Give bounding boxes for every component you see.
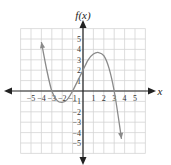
- function-graph: −5−4−3−2−112345−5−4−3−2−112345 f(x) x: [0, 0, 171, 165]
- y-tick-label: 2: [77, 66, 81, 75]
- y-axis-label: f(x): [75, 9, 91, 22]
- y-tick-label: −2: [72, 108, 81, 117]
- y-axis-down-arrow: [80, 157, 87, 165]
- y-tick-label: 3: [77, 56, 81, 65]
- curve-end-arrow-icon: [118, 133, 123, 139]
- x-axis-right-arrow: [148, 88, 156, 95]
- x-tick-label: 1: [91, 94, 95, 103]
- x-tick-label: 4: [123, 94, 127, 103]
- y-axis-up-arrow: [80, 20, 87, 28]
- curve-start-arrow-icon: [40, 42, 45, 48]
- x-axis-left-arrow: [4, 88, 12, 95]
- x-tick-label: 5: [133, 94, 137, 103]
- y-tick-label: −4: [72, 129, 81, 138]
- x-tick-label: −5: [27, 94, 36, 103]
- y-tick-label: −5: [72, 139, 81, 148]
- y-tick-label: 5: [77, 35, 81, 44]
- x-axis-label: x: [157, 85, 163, 97]
- x-tick-label: −4: [37, 94, 46, 103]
- y-tick-label: 4: [77, 45, 81, 54]
- y-tick-label: −3: [72, 118, 81, 127]
- y-tick-label: −1: [72, 97, 81, 106]
- x-tick-label: 2: [102, 94, 106, 103]
